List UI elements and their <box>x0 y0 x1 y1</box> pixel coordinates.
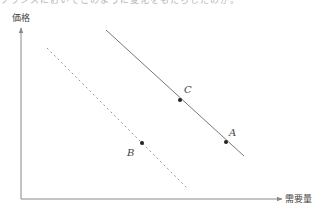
y-axis-label: 価格 <box>12 12 30 23</box>
point-c-marker <box>178 98 182 102</box>
demand-curve-original <box>106 30 244 156</box>
x-axis-label: 需要量 <box>285 194 312 204</box>
demand-shift-diagram: 価格 需要量 A B C <box>0 0 321 217</box>
point-b-marker <box>140 141 144 145</box>
point-b-label: B <box>126 147 134 158</box>
point-c-label: C <box>184 84 192 95</box>
demand-curve-shifted <box>47 48 187 188</box>
point-a-marker <box>224 140 228 144</box>
point-a-label: A <box>228 127 236 138</box>
